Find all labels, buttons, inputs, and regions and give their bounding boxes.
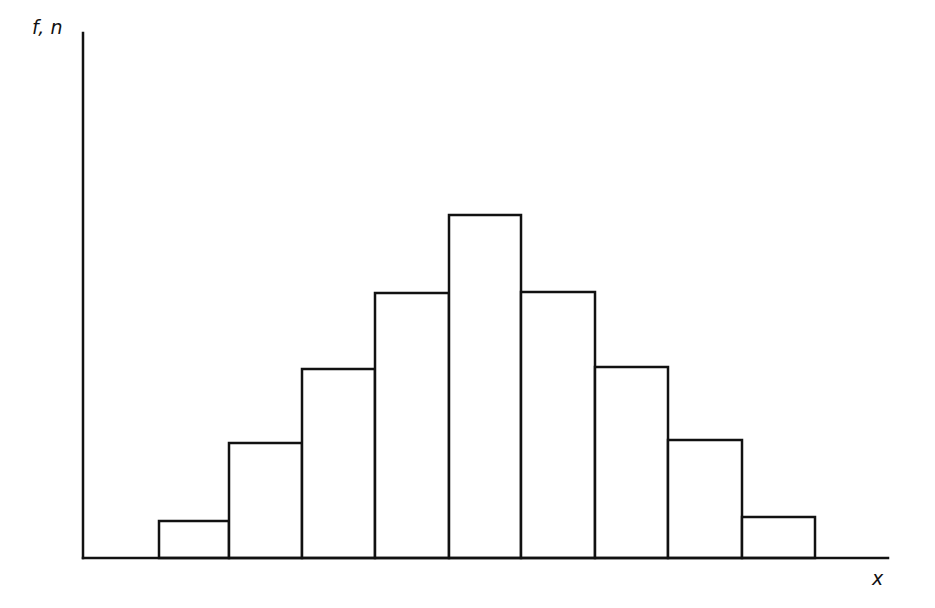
histogram-bar (595, 367, 668, 558)
histogram-bar (521, 292, 595, 558)
y-axis-label: f, n (32, 16, 62, 38)
histogram-bar (229, 443, 302, 558)
histogram-chart (0, 0, 935, 608)
histogram-bar (375, 293, 449, 558)
histogram-bar (668, 440, 742, 558)
histogram-bar (302, 369, 375, 558)
histogram-bar (159, 521, 229, 558)
x-axis-label: x (872, 567, 883, 589)
histogram-bar (742, 517, 815, 558)
histogram-bar (449, 215, 521, 558)
histogram-bars (159, 215, 815, 558)
